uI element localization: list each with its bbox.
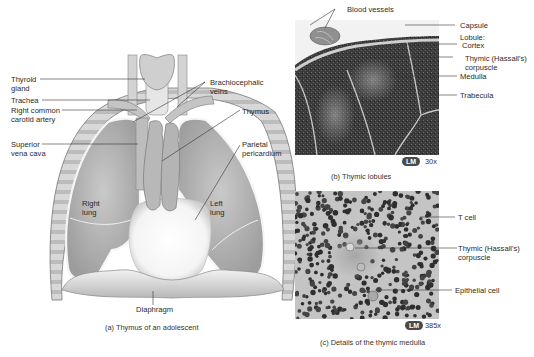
label-thymic-corpuscle-c: Thymic (Hassall's) corpuscle [458, 244, 520, 262]
label-t-cell: T cell [458, 213, 476, 222]
magnification-c: 385x [425, 321, 441, 330]
lm-badge-c: LM [405, 321, 423, 330]
label-epithelial-cell: Epithelial cell [455, 286, 499, 295]
caption-panel-c: (c) Details of the thymic medulla [320, 338, 425, 347]
panel-c-leader-lines [0, 0, 534, 357]
